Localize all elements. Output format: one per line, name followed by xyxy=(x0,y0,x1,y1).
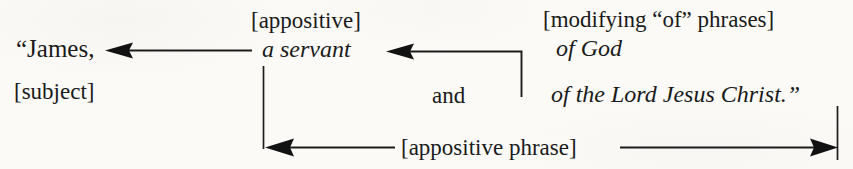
conjunction-label: and xyxy=(432,84,465,107)
subject-tag-label: [subject] xyxy=(14,80,94,103)
modifying-of-phrases-tag-label: [modifying “of” phrases] xyxy=(543,8,774,31)
of-the-lord-jesus-christ-label: of the Lord Jesus Christ.” xyxy=(551,82,800,106)
of-god-label: of God xyxy=(556,36,622,60)
appositive-phrase-tag-label: [appositive phrase] xyxy=(397,136,581,159)
subject-word-label: “James, xyxy=(16,36,94,61)
appositive-word-label: a servant xyxy=(262,37,351,61)
appositive-tag-label: [appositive] xyxy=(251,9,361,32)
connector-servant-to-james-icon xyxy=(105,43,252,59)
sentence-diagram-figure: --> “James, [subject] [appositive] a ser… xyxy=(0,0,853,169)
